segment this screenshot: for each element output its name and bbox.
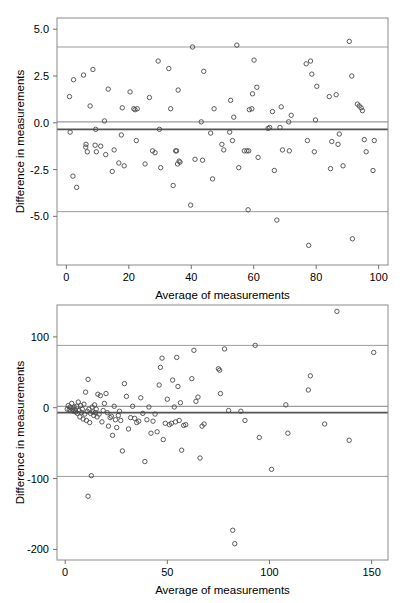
data-point — [119, 133, 123, 137]
data-point — [87, 420, 91, 424]
data-point — [158, 166, 162, 170]
data-point — [126, 427, 130, 431]
data-point — [227, 130, 231, 134]
data-point — [257, 435, 261, 439]
data-point — [113, 418, 117, 422]
data-point — [336, 142, 340, 146]
data-point — [188, 203, 192, 207]
data-point — [269, 467, 273, 471]
data-point — [327, 94, 331, 98]
data-point — [270, 109, 274, 113]
data-point — [252, 58, 256, 62]
data-point — [171, 183, 175, 187]
data-point — [85, 150, 89, 154]
data-point — [337, 132, 341, 136]
y-tick-label: 0 — [43, 402, 49, 414]
data-point — [198, 456, 202, 460]
data-point — [304, 62, 308, 66]
data-point — [160, 356, 164, 360]
data-point — [110, 433, 114, 437]
data-point — [218, 391, 222, 395]
x-axis-title: Average of measurements — [155, 584, 290, 596]
x-tick-label: 100 — [369, 271, 387, 283]
data-point — [100, 420, 104, 424]
data-point — [116, 413, 120, 417]
data-point — [120, 106, 124, 110]
data-point — [232, 115, 236, 119]
x-axis-title: Average of measurements — [155, 289, 290, 300]
x-tick-label: 0 — [62, 566, 68, 578]
data-point — [350, 237, 354, 241]
y-tick-label: 0.0 — [34, 117, 49, 129]
data-point — [74, 185, 78, 189]
data-point — [93, 143, 97, 147]
y-tick-label: 100 — [31, 331, 49, 343]
data-point — [122, 381, 126, 385]
data-point — [172, 405, 176, 409]
data-point — [196, 395, 200, 399]
data-point — [122, 164, 126, 168]
data-point — [106, 424, 110, 428]
data-point — [310, 72, 314, 76]
data-point — [334, 93, 338, 97]
data-point — [161, 437, 165, 441]
data-point — [120, 449, 124, 453]
y-tick-label: 5.0 — [34, 23, 49, 35]
data-point — [134, 138, 138, 142]
data-point — [335, 309, 339, 313]
data-point — [86, 377, 90, 381]
data-point — [114, 425, 118, 429]
data-point — [68, 130, 72, 134]
data-point — [84, 142, 88, 146]
chart-panel-top: 0204060801005.02.50.0-2.5-5.0Average of … — [0, 0, 402, 300]
data-point — [272, 168, 276, 172]
data-point — [143, 162, 147, 166]
data-point — [193, 157, 197, 161]
data-point — [143, 459, 147, 463]
data-point — [139, 396, 143, 400]
data-point — [71, 78, 75, 82]
data-point-group — [67, 39, 376, 247]
x-tick-label: 50 — [161, 566, 173, 578]
data-point — [228, 98, 232, 102]
data-point — [106, 87, 110, 91]
data-point — [128, 90, 132, 94]
data-point — [179, 448, 183, 452]
data-point — [170, 378, 174, 382]
x-tick-label: 80 — [310, 271, 322, 283]
data-point — [212, 107, 216, 111]
y-tick-label: -5.0 — [30, 210, 49, 222]
x-tick-label: 20 — [123, 271, 135, 283]
data-point — [155, 430, 159, 434]
data-point — [99, 144, 103, 148]
data-point — [287, 149, 291, 153]
data-point — [256, 155, 260, 159]
y-tick-label: -2.5 — [30, 164, 49, 176]
data-point — [350, 74, 354, 78]
data-point — [330, 139, 334, 143]
data-point — [88, 104, 92, 108]
data-point — [165, 397, 169, 401]
data-point — [279, 105, 283, 109]
data-point — [341, 164, 345, 168]
data-point — [102, 119, 106, 123]
data-point — [210, 177, 214, 181]
x-tick-label: 100 — [260, 566, 278, 578]
y-axis-title: Difference in measurements — [14, 69, 26, 213]
data-point — [67, 94, 71, 98]
data-point — [237, 166, 241, 170]
data-point — [364, 150, 368, 154]
data-point — [222, 148, 226, 152]
data-point — [222, 347, 226, 351]
data-point — [372, 138, 376, 142]
data-point — [175, 355, 179, 359]
data-point — [176, 384, 180, 388]
data-point — [86, 494, 90, 498]
chart-panel-bottom: 0501001501000-100-200Average of measurem… — [0, 300, 402, 603]
data-point — [81, 73, 85, 77]
data-point — [149, 431, 153, 435]
plot-frame — [57, 305, 388, 560]
data-point — [286, 431, 290, 435]
data-point — [371, 168, 375, 172]
data-point — [280, 148, 284, 152]
